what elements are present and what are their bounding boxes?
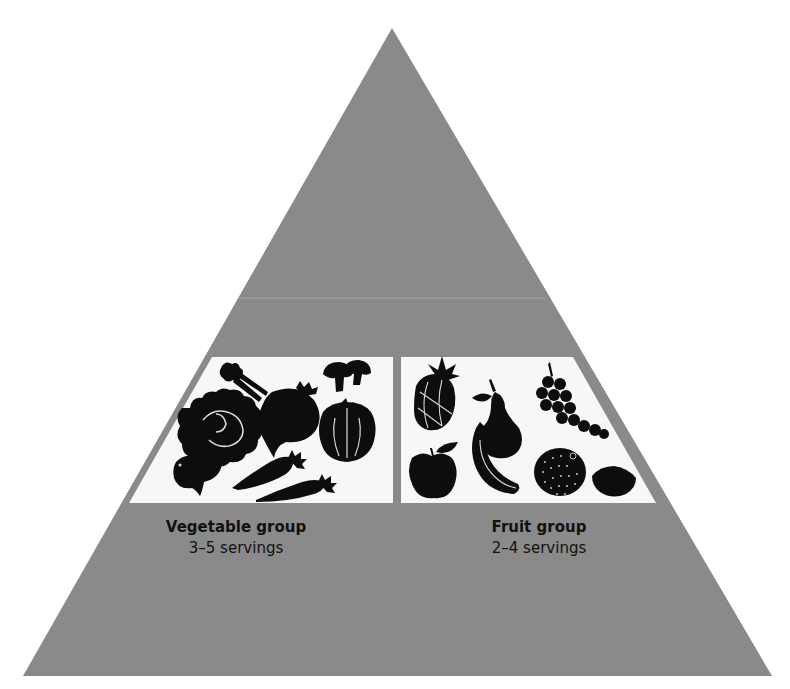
orange-icon: [534, 448, 586, 496]
food-pyramid-diagram: [0, 0, 790, 689]
fruit-group-title: Fruit group: [429, 518, 649, 536]
pyramid-triangle: [23, 28, 772, 676]
vegetable-group-title: Vegetable group: [126, 518, 346, 536]
vegetable-group-servings: 3–5 servings: [126, 539, 346, 557]
fruit-group-servings: 2–4 servings: [429, 539, 649, 557]
